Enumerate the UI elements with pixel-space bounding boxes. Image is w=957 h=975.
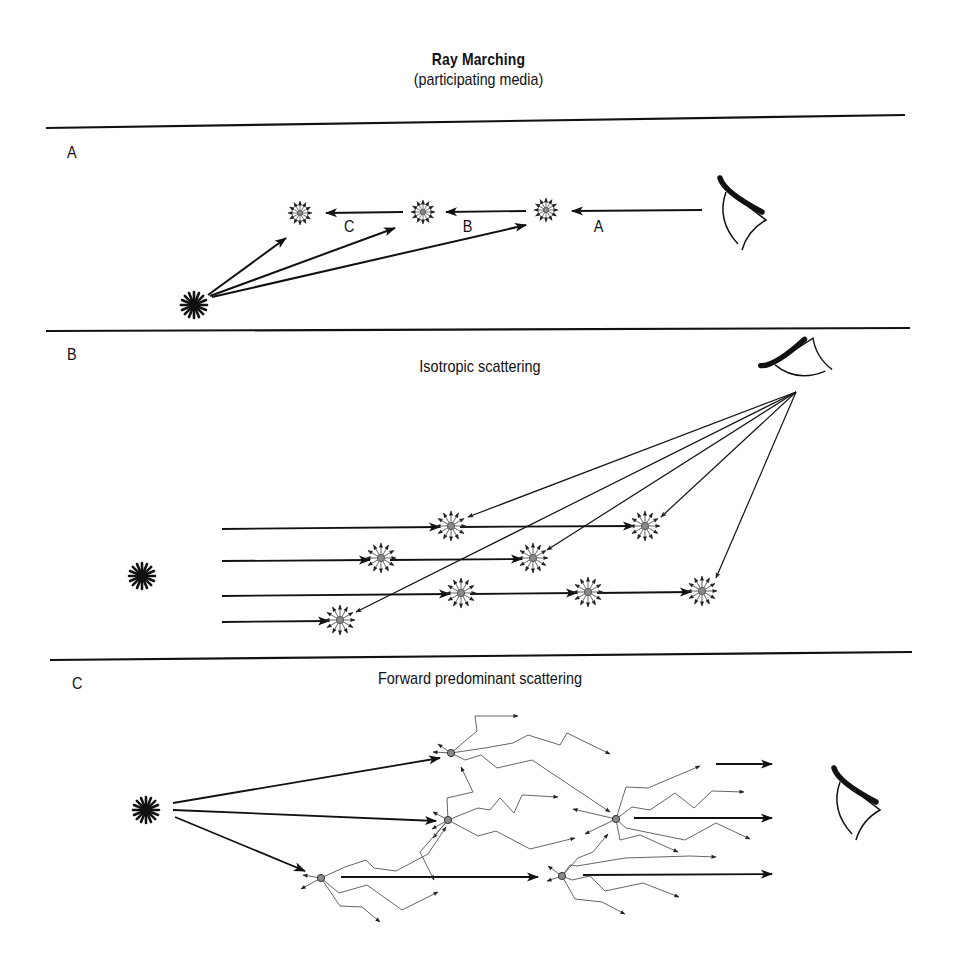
scatter-point-icon — [630, 511, 660, 541]
light-source-icon — [181, 292, 207, 318]
scatter-point-icon — [317, 874, 324, 881]
scatter-point-icon — [518, 543, 548, 573]
scatter-point-icon — [558, 872, 565, 879]
eye-icon — [761, 325, 840, 389]
eye-icon — [720, 178, 766, 250]
light-source-icon — [133, 797, 159, 823]
scatter-point-icon — [446, 578, 476, 608]
scatter-point-icon — [687, 576, 717, 606]
panel-b-diagram — [129, 325, 840, 635]
panel-a-diagram — [181, 178, 766, 318]
scatter-point-icon — [288, 201, 312, 225]
scatter-point-icon — [366, 543, 396, 573]
scatter-point-icon — [436, 511, 466, 541]
eye-icon — [834, 768, 880, 840]
ray-marching-diagram — [0, 0, 957, 975]
scatter-point-icon — [573, 577, 603, 607]
divider-top — [46, 115, 905, 128]
divider-middle — [46, 328, 910, 331]
scatter-point-icon — [534, 198, 558, 222]
scatter-point-icon — [447, 749, 454, 756]
scatter-point-icon — [325, 605, 355, 635]
scatter-point-icon — [444, 816, 451, 823]
light-source-icon — [129, 563, 155, 589]
divider-bottom — [50, 652, 912, 660]
scatter-point-icon — [411, 200, 435, 224]
scatter-point-icon — [612, 815, 619, 822]
panel-c-diagram — [133, 716, 880, 922]
